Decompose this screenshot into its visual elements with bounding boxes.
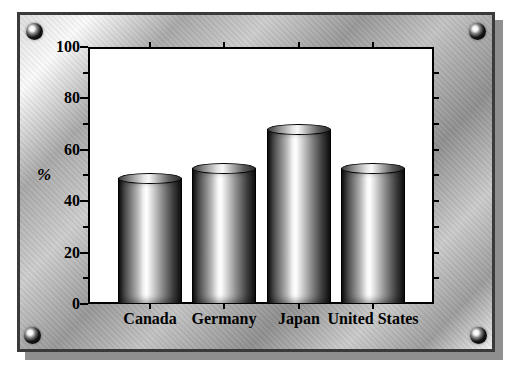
top-axis-category-tick [372, 42, 374, 47]
y-tick-label: 40 [22, 192, 80, 210]
framed-chart-slide: % 020406080100CanadaGermanyJapanUnited S… [0, 0, 513, 372]
bar-top-cap [192, 163, 256, 174]
right-axis-tick [434, 200, 439, 202]
category-label: Japan [278, 310, 320, 328]
x-axis-category-tick [149, 304, 151, 309]
right-axis-tick [434, 252, 439, 254]
y-axis-major-tick [80, 46, 88, 48]
y-axis-minor-tick [83, 72, 88, 74]
y-tick-label: 60 [22, 141, 80, 159]
right-axis-tick [434, 174, 439, 176]
y-axis-major-tick [80, 252, 88, 254]
right-axis-tick [434, 72, 439, 74]
y-axis-major-tick [80, 303, 88, 305]
bar-top-cap [267, 124, 331, 135]
right-axis-tick [434, 123, 439, 125]
right-axis-tick [434, 226, 439, 228]
chart-layer: 020406080100CanadaGermanyJapanUnited Sta… [20, 15, 492, 349]
category-label: Germany [192, 310, 257, 328]
bar-top-cap [118, 173, 182, 184]
right-axis-tick [434, 149, 439, 151]
y-axis-minor-tick [83, 123, 88, 125]
bar-body [341, 168, 405, 303]
x-axis-category-tick [223, 304, 225, 309]
bar-canada [118, 173, 182, 303]
y-axis-minor-tick [83, 174, 88, 176]
y-tick-label: 80 [22, 89, 80, 107]
right-axis-tick [434, 97, 439, 99]
right-axis-tick [434, 277, 439, 279]
bar-united-states [341, 163, 405, 303]
top-axis-category-tick [298, 42, 300, 47]
bar-body [267, 129, 331, 303]
x-axis-category-tick [298, 304, 300, 309]
bar-germany [192, 163, 256, 303]
x-axis-category-tick [372, 304, 374, 309]
category-label: Canada [123, 310, 176, 328]
bar-top-cap [341, 163, 405, 174]
top-axis-category-tick [223, 42, 225, 47]
y-axis-major-tick [80, 200, 88, 202]
y-axis-major-tick [80, 97, 88, 99]
bar-body [118, 178, 182, 303]
bar-japan [267, 124, 331, 303]
y-axis-minor-tick [83, 277, 88, 279]
y-tick-label: 0 [22, 295, 80, 313]
top-axis-category-tick [149, 42, 151, 47]
metal-frame: % 020406080100CanadaGermanyJapanUnited S… [17, 12, 495, 352]
bar-body [192, 168, 256, 303]
y-tick-label: 100 [22, 38, 80, 56]
category-label: United States [327, 310, 418, 328]
y-axis-major-tick [80, 149, 88, 151]
y-axis-minor-tick [83, 226, 88, 228]
y-tick-label: 20 [22, 244, 80, 262]
